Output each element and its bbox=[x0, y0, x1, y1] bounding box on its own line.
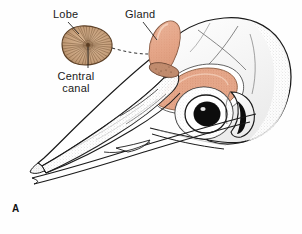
gland-leader-line bbox=[143, 22, 157, 40]
lobe-inset bbox=[55, 21, 119, 73]
label-central-canal: Central canal bbox=[48, 70, 104, 94]
anatomical-figure: Lobe Gland Central canal A bbox=[0, 0, 302, 234]
eye bbox=[175, 87, 233, 139]
label-gland: Gland bbox=[125, 8, 155, 20]
label-central-canal-line2: canal bbox=[48, 82, 104, 94]
lobe-to-gland-dashed-leader bbox=[112, 48, 148, 54]
gland-cutaway bbox=[148, 21, 180, 80]
label-central-canal-line1: Central bbox=[48, 70, 104, 82]
panel-letter: A bbox=[12, 203, 20, 214]
bird-skull-illustration bbox=[0, 0, 302, 234]
eye-pupil bbox=[194, 102, 221, 127]
label-lobe: Lobe bbox=[53, 8, 78, 20]
central-canal-point bbox=[86, 43, 90, 47]
